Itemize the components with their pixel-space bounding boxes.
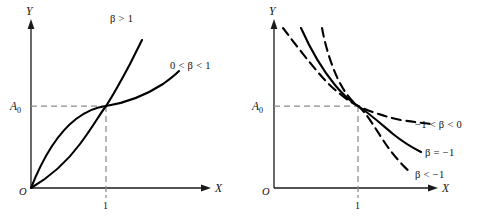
chart-panel-right: Y X O A0 1 −1 < β < 0 β = −1 β < −1	[243, 0, 485, 224]
right-origin-label: O	[262, 186, 270, 197]
curve-beta-greater-than-1	[31, 40, 142, 188]
left-origin-label: O	[19, 186, 27, 197]
right-x-axis	[274, 185, 438, 192]
left-x-axis-label: X	[214, 182, 223, 194]
left-a0-label: A0	[9, 100, 21, 115]
right-series-label-beta-equals-neg1: β = −1	[425, 147, 455, 158]
right-y-axis	[271, 19, 278, 188]
chart-panel-left: Y X O A0 1 β > 1 0 < β < 1	[0, 0, 243, 224]
left-chart-svg: Y X O A0 1 β > 1 0 < β < 1	[0, 0, 243, 224]
left-x-axis	[31, 185, 211, 192]
left-series-label-beta-between-0-and-1: 0 < β < 1	[170, 60, 211, 71]
left-y-axis-label: Y	[26, 5, 34, 17]
right-a0-label: A0	[251, 100, 263, 115]
right-y-axis-label: Y	[269, 5, 277, 17]
curve-beta-less-than-neg1	[322, 28, 411, 173]
right-x-axis-label: X	[441, 182, 450, 194]
right-x-tick-label: 1	[355, 200, 360, 211]
left-series-label-beta-greater-than-1: β > 1	[110, 13, 133, 24]
left-x-tick-label: 1	[103, 200, 108, 211]
left-y-axis	[28, 19, 35, 188]
right-series-label-beta-between-neg1-and-0: −1 < β < 0	[415, 119, 462, 130]
curve-beta-between-neg1-and-0	[283, 28, 431, 124]
curve-beta-equals-neg1	[301, 28, 421, 152]
figure-power-function-curves: Y X O A0 1 β > 1 0 < β < 1	[0, 0, 485, 224]
right-chart-svg: Y X O A0 1 −1 < β < 0 β = −1 β < −1	[243, 0, 485, 224]
right-series-label-beta-less-than-neg1: β < −1	[415, 169, 445, 180]
curve-beta-between-0-and-1	[31, 71, 179, 188]
